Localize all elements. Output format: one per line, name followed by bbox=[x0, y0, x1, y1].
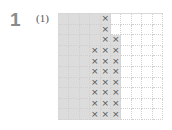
sub-question-label: (1) bbox=[36, 13, 49, 24]
grid-cell bbox=[121, 99, 131, 110]
cross-mark-icon: × bbox=[101, 14, 109, 23]
cross-mark-icon: × bbox=[112, 78, 120, 87]
marked-grid-cell: × bbox=[90, 46, 100, 57]
grid-cell bbox=[142, 14, 152, 25]
shaded-grid-cell bbox=[69, 67, 79, 78]
grid-cell bbox=[121, 78, 131, 89]
grid-cell bbox=[153, 14, 163, 25]
grid-cell bbox=[153, 99, 163, 110]
shaded-grid-cell bbox=[80, 25, 90, 36]
grid-cell bbox=[121, 109, 131, 120]
shaded-grid-cell bbox=[80, 99, 90, 110]
marked-grid-cell: × bbox=[101, 67, 111, 78]
cross-mark-icon: × bbox=[91, 57, 99, 66]
cross-mark-icon: × bbox=[112, 110, 120, 119]
cross-mark-icon: × bbox=[101, 46, 109, 55]
grid-cell bbox=[132, 109, 142, 120]
shaded-grid-cell bbox=[59, 78, 69, 89]
grid-cell bbox=[132, 88, 142, 99]
shaded-grid-cell bbox=[69, 25, 79, 36]
cross-mark-icon: × bbox=[91, 67, 99, 76]
marked-grid-cell: × bbox=[111, 46, 121, 57]
grid-cell bbox=[132, 78, 142, 89]
grid-cell bbox=[153, 56, 163, 67]
shaded-grid-cell bbox=[59, 67, 69, 78]
shaded-grid-cell bbox=[69, 46, 79, 57]
cross-mark-icon: × bbox=[112, 67, 120, 76]
shaded-grid-cell bbox=[90, 25, 100, 36]
shaded-grid-cell bbox=[69, 78, 79, 89]
grid-cell bbox=[121, 46, 131, 57]
grid-cell bbox=[132, 67, 142, 78]
grid-cell bbox=[142, 56, 152, 67]
shaded-grid-cell bbox=[59, 88, 69, 99]
grid-cell bbox=[153, 78, 163, 89]
shaded-grid-cell bbox=[69, 99, 79, 110]
marked-grid-cell: × bbox=[101, 46, 111, 57]
cross-mark-icon: × bbox=[101, 110, 109, 119]
marked-grid-cell: × bbox=[101, 99, 111, 110]
grid-cell bbox=[153, 67, 163, 78]
grid-cell bbox=[121, 67, 131, 78]
grid-cell bbox=[132, 14, 142, 25]
hundred-grid: ××××××××××××××××××××××××× bbox=[58, 13, 163, 120]
cross-mark-icon: × bbox=[112, 35, 120, 44]
grid-cell bbox=[142, 99, 152, 110]
grid-cell bbox=[121, 35, 131, 46]
marked-grid-cell: × bbox=[111, 109, 121, 120]
cross-mark-icon: × bbox=[112, 57, 120, 66]
cross-mark-icon: × bbox=[91, 110, 99, 119]
shaded-grid-cell bbox=[80, 56, 90, 67]
grid-cell bbox=[121, 14, 131, 25]
grid-cell bbox=[132, 25, 142, 36]
grid-cell bbox=[153, 35, 163, 46]
cross-mark-icon: × bbox=[91, 78, 99, 87]
cross-mark-icon: × bbox=[91, 99, 99, 108]
grid-cell bbox=[132, 35, 142, 46]
shaded-grid-cell bbox=[59, 99, 69, 110]
grid-cell bbox=[153, 46, 163, 57]
grid-cell bbox=[132, 46, 142, 57]
marked-grid-cell: × bbox=[90, 109, 100, 120]
shaded-grid-cell bbox=[80, 78, 90, 89]
grid-cell bbox=[111, 14, 121, 25]
shaded-grid-cell bbox=[69, 88, 79, 99]
grid-cell bbox=[142, 78, 152, 89]
grid-cell bbox=[121, 88, 131, 99]
shaded-grid-cell bbox=[69, 56, 79, 67]
shaded-grid-cell bbox=[80, 67, 90, 78]
marked-grid-cell: × bbox=[111, 99, 121, 110]
shaded-grid-cell bbox=[69, 109, 79, 120]
cross-mark-icon: × bbox=[91, 88, 99, 97]
cross-mark-icon: × bbox=[112, 88, 120, 97]
grid-cell bbox=[121, 56, 131, 67]
shaded-grid-cell bbox=[80, 109, 90, 120]
grid-cell bbox=[142, 109, 152, 120]
cross-mark-icon: × bbox=[101, 57, 109, 66]
grid-cell bbox=[132, 99, 142, 110]
cross-mark-icon: × bbox=[101, 99, 109, 108]
grid-cell bbox=[142, 25, 152, 36]
marked-grid-cell: × bbox=[111, 67, 121, 78]
shaded-grid-cell bbox=[80, 46, 90, 57]
shaded-grid-cell bbox=[80, 35, 90, 46]
shaded-grid-cell bbox=[80, 88, 90, 99]
cross-mark-icon: × bbox=[91, 46, 99, 55]
grid-cell bbox=[153, 109, 163, 120]
cross-mark-icon: × bbox=[101, 88, 109, 97]
grid-cell bbox=[121, 25, 131, 36]
shaded-grid-cell bbox=[59, 35, 69, 46]
shaded-grid-cell bbox=[69, 35, 79, 46]
cross-mark-icon: × bbox=[101, 35, 109, 44]
marked-grid-cell: × bbox=[90, 67, 100, 78]
grid-cell bbox=[142, 46, 152, 57]
grid-cell bbox=[142, 67, 152, 78]
shaded-grid-cell bbox=[59, 14, 69, 25]
cross-mark-icon: × bbox=[101, 67, 109, 76]
marked-grid-cell: × bbox=[101, 109, 111, 120]
cross-mark-icon: × bbox=[112, 46, 120, 55]
shaded-grid-cell bbox=[59, 25, 69, 36]
grid-cell bbox=[142, 35, 152, 46]
cross-mark-icon: × bbox=[101, 78, 109, 87]
grid-cell bbox=[142, 88, 152, 99]
